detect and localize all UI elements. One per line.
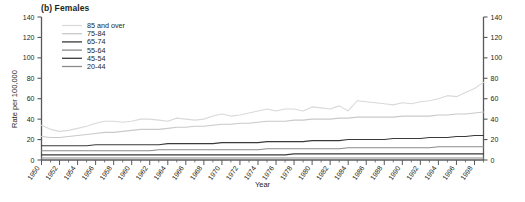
x-tick-label: 1994	[423, 164, 438, 181]
series-line	[42, 82, 484, 131]
x-tick-label: 1950	[26, 164, 41, 181]
chart-container: (b) Females Rate per 100,000 Year 020406…	[0, 0, 525, 202]
y-tick-label-right: 20	[491, 136, 499, 143]
legend-label: 20-44	[87, 62, 105, 71]
x-tick-label: 1964	[152, 164, 167, 181]
y-tick-label-right: 60	[491, 95, 499, 102]
x-tick-label: 1960	[116, 164, 131, 181]
y-axis-left: 020406080100120140	[23, 14, 42, 164]
x-tick-label: 1962	[134, 164, 149, 181]
x-tick-label: 1984	[333, 164, 348, 181]
y-tick-label-left: 60	[27, 95, 35, 102]
y-tick-label-left: 0	[31, 157, 35, 164]
y-tick-label-right: 100	[491, 54, 503, 61]
x-tick-label: 1972	[225, 164, 240, 181]
x-tick-label: 1966	[170, 164, 185, 181]
series-line	[42, 112, 484, 138]
y-tick-label-right: 140	[491, 14, 503, 21]
y-tick-label-right: 40	[491, 116, 499, 123]
y-tick-label-right: 0	[491, 157, 495, 164]
x-tick-label: 1976	[261, 164, 276, 181]
x-tick-label: 1968	[189, 164, 204, 181]
x-tick-label: 1980	[297, 164, 312, 181]
y-tick-label-right: 120	[491, 34, 503, 41]
data-series-group	[42, 82, 484, 158]
x-tick-label: 1990	[387, 164, 402, 181]
series-line	[42, 147, 484, 151]
x-tick-label: 1954	[62, 164, 77, 181]
x-tick-label: 1996	[441, 164, 456, 181]
y-tick-label-left: 140	[23, 14, 35, 21]
y-tick-label-left: 20	[27, 136, 35, 143]
x-tick-label: 1974	[243, 164, 258, 181]
x-tick-label: 1988	[369, 164, 384, 181]
y-tick-label-left: 80	[27, 75, 35, 82]
y-tick-label-right: 80	[491, 75, 499, 82]
series-line	[42, 135, 484, 145]
x-tick-label: 1992	[405, 164, 420, 181]
x-tick-label: 1958	[98, 164, 113, 181]
x-tick-label: 1998	[459, 164, 474, 181]
x-tick-label: 1982	[315, 164, 330, 181]
x-axis: 1950195219541956195819601962196419661968…	[26, 160, 483, 181]
x-tick-label: 1956	[80, 164, 95, 181]
series-line	[42, 154, 484, 155]
x-tick-label: 1986	[351, 164, 366, 181]
x-tick-label: 1952	[44, 164, 59, 181]
legend: 85 and over75-8465-7455-6445-5420-44	[62, 21, 126, 71]
line-chart-plot: 020406080100120140 020406080100120140 19…	[0, 0, 525, 202]
y-tick-label-left: 40	[27, 116, 35, 123]
y-tick-label-left: 120	[23, 34, 35, 41]
x-tick-label: 1978	[279, 164, 294, 181]
y-axis-right: 020406080100120140	[484, 14, 503, 164]
x-tick-label: 1970	[207, 164, 222, 181]
y-tick-label-left: 100	[23, 54, 35, 61]
